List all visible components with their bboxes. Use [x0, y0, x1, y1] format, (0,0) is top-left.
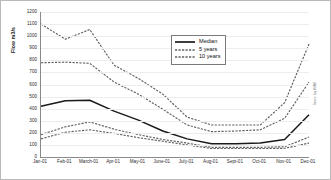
legend-label: 10 years [199, 54, 220, 60]
x-tick-label: Feb-01 [57, 159, 72, 164]
gridline [41, 109, 309, 110]
y-tick-label: 600 [21, 82, 37, 87]
gridline [41, 24, 309, 25]
x-tick-label: Oct-01 [252, 159, 266, 164]
x-tick-label: Dec-01 [301, 159, 316, 164]
legend-line-swatch-icon [175, 39, 195, 45]
x-tick-label: March-01 [79, 159, 98, 164]
gridline [41, 12, 309, 13]
x-tick-label: July-01 [179, 159, 194, 164]
x-tick-label: June-01 [154, 159, 171, 164]
x-tick-label: Jan-01 [33, 159, 47, 164]
gridline [41, 97, 309, 98]
legend-item: Median [175, 39, 220, 47]
series-line [41, 100, 309, 144]
gridline [41, 133, 309, 134]
x-tick-label: Aug-01 [203, 159, 218, 164]
x-axis-tick-labels: Jan-01Feb-01March-01Apr-01May-01June-01J… [40, 159, 308, 173]
source-credit: Source: Iraq MoWR [314, 51, 317, 105]
legend-label: Median [199, 39, 217, 45]
plot-area [40, 12, 309, 158]
y-tick-label: 100 [21, 143, 37, 148]
y-tick-label: 800 [21, 58, 37, 63]
x-tick-label: Nov-01 [276, 159, 291, 164]
legend-item: 10 years [175, 54, 220, 62]
x-tick-label: May-01 [130, 159, 145, 164]
y-tick-label: 300 [21, 118, 37, 123]
y-tick-label: 1200 [21, 10, 37, 15]
y-tick-label: 1000 [21, 34, 37, 39]
flow-chart-figure: Flow m3/s 120011001000900800700600500400… [0, 0, 331, 180]
gridline [41, 72, 309, 73]
legend-line-swatch-icon [175, 47, 195, 53]
gridline [41, 85, 309, 86]
chart-legend: Median5 years10 years [171, 35, 226, 65]
y-tick-label: 700 [21, 70, 37, 75]
gridline [41, 145, 309, 146]
legend-label: 5 years [199, 47, 217, 53]
y-tick-label: 500 [21, 94, 37, 99]
x-tick-label: Apr-01 [106, 159, 120, 164]
y-axis-title: Flow m3/s [10, 0, 16, 53]
y-tick-label: 400 [21, 106, 37, 111]
legend-line-swatch-icon [175, 54, 195, 60]
y-tick-label: 900 [21, 46, 37, 51]
y-tick-label: 200 [21, 131, 37, 136]
gridline [41, 121, 309, 122]
x-tick-label: Sept-01 [227, 159, 243, 164]
legend-item: 5 years [175, 46, 220, 54]
y-axis-tick-labels: 1200110010009008007006005004003002001000 [21, 1, 37, 180]
y-tick-label: 1100 [21, 22, 37, 27]
